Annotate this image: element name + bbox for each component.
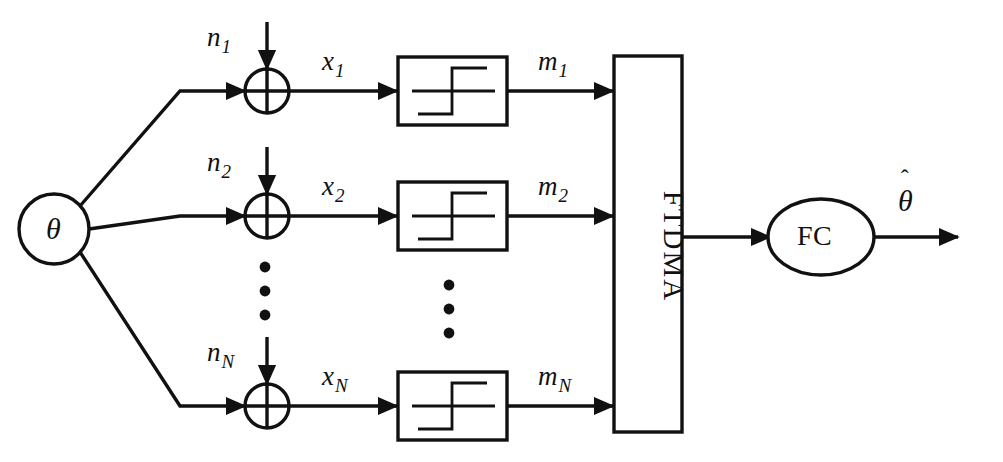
noise-1-label: n1 (207, 24, 230, 51)
theta-label: θ (46, 214, 61, 244)
message-1-label: m1 (538, 48, 567, 75)
noise-n-base: n (207, 337, 221, 367)
noise-1-sub: 1 (222, 36, 232, 57)
noise-n-sub: N (222, 351, 235, 372)
diagram-canvas: θ n1 x1 m1 n2 x2 m2 nN xN mN FTDMA FC ˆ … (0, 0, 1003, 462)
signal-1-sub: 1 (335, 60, 345, 81)
ellipsis-left-dot-2 (260, 286, 271, 297)
signal-n-sub: N (335, 375, 348, 396)
ftdma-label: FTDMA (657, 147, 690, 347)
ellipsis-left-dot-1 (260, 262, 271, 273)
message-1-base: m (538, 46, 558, 76)
ellipsis-right-dot-1 (444, 280, 455, 291)
branch-n-wire (80, 252, 245, 406)
message-n-base: m (538, 361, 558, 391)
diagram-lines (0, 0, 1003, 462)
ellipsis-right-dot-2 (444, 304, 455, 315)
theta-hat-wrap: ˆ θ (898, 186, 913, 216)
message-2-sub: 2 (559, 185, 569, 206)
signal-2-sub: 2 (335, 185, 345, 206)
message-1-sub: 1 (559, 60, 569, 81)
fusion-center-label: FC (797, 222, 832, 250)
theta-hat-label: ˆ θ (898, 186, 913, 216)
noise-2-label: n2 (207, 149, 230, 176)
ellipsis-left-dot-3 (260, 310, 271, 321)
noise-2-base: n (207, 147, 221, 177)
noise-1-base: n (207, 22, 221, 52)
signal-1-label: x1 (322, 48, 343, 75)
message-n-label: mN (538, 363, 570, 390)
hat-accent: ˆ (901, 166, 909, 190)
noise-n-label: nN (207, 339, 233, 366)
message-2-label: m2 (538, 173, 567, 200)
message-2-base: m (538, 171, 558, 201)
noise-2-sub: 2 (222, 161, 232, 182)
message-n-sub: N (559, 375, 572, 396)
signal-n-base: x (322, 361, 334, 391)
branch-2-wire (89, 216, 245, 229)
signal-1-base: x (322, 46, 334, 76)
ellipsis-right-dot-3 (444, 328, 455, 339)
signal-2-label: x2 (322, 173, 343, 200)
signal-2-base: x (322, 171, 334, 201)
signal-n-label: xN (322, 363, 347, 390)
